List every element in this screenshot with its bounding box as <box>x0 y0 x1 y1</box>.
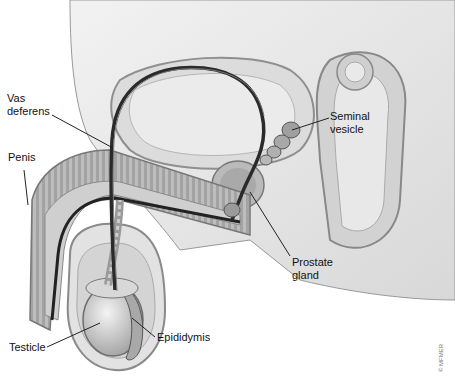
copyright-credit: © MFMER <box>438 344 444 372</box>
label-seminal-vesicle: Seminal vesicle <box>330 110 370 136</box>
label-seminal-vesicle-line1: Seminal <box>330 110 370 123</box>
label-seminal-vesicle-line2: vesicle <box>330 123 370 136</box>
label-testicle: Testicle <box>9 341 46 354</box>
label-prostate-gland-line1: Prostate <box>292 256 333 269</box>
anatomy-drawing <box>0 0 455 380</box>
anatomy-illustration: Vas deferens Penis Seminal vesicle Prost… <box>0 0 455 380</box>
label-vas-deferens: Vas deferens <box>7 92 50 118</box>
label-penis: Penis <box>8 151 36 164</box>
label-epididymis: Epididymis <box>157 331 210 344</box>
label-vas-deferens-line1: Vas <box>7 92 50 105</box>
label-vas-deferens-line2: deferens <box>7 105 50 118</box>
label-prostate-gland-line2: gland <box>292 269 333 282</box>
label-prostate-gland: Prostate gland <box>292 256 333 282</box>
